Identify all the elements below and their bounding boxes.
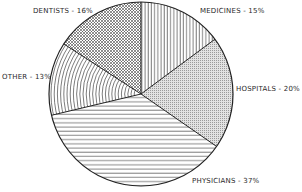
label-physicians: PHYSICIANS - 37% xyxy=(192,177,259,186)
pie-chart xyxy=(0,0,302,192)
label-other: OTHER - 13% xyxy=(2,73,51,82)
label-medicines: MEDICINES - 15% xyxy=(200,7,265,16)
label-hospitals: HOSPITALS - 20% xyxy=(236,85,300,94)
label-dentists: DENTISTS - 16% xyxy=(33,7,93,16)
